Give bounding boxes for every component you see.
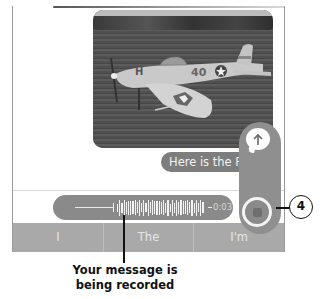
waveform-bar <box>185 201 186 214</box>
phone-screen: 40 H Here is the P D 0:03 I The I'm <box>12 6 285 252</box>
svg-text:H: H <box>135 66 143 77</box>
callout-number-badge: 4 <box>289 195 313 219</box>
waveform-bar <box>165 203 166 213</box>
suggestion-2[interactable]: The <box>104 223 195 252</box>
callout-pointer-line <box>276 207 290 209</box>
waveform-bar <box>137 202 138 213</box>
waveform-bar <box>200 200 201 216</box>
waveform-bar <box>145 203 146 212</box>
waveform-bar <box>117 204 118 212</box>
waveform-bar <box>176 200 177 216</box>
arrow-up-icon <box>252 133 264 146</box>
waveform-bar <box>183 201 184 214</box>
waveform-bar <box>141 203 142 212</box>
waveform-bar <box>189 202 190 213</box>
waveform-bar <box>156 201 157 215</box>
waveform-bar <box>172 200 173 216</box>
waveform-bar <box>174 203 175 213</box>
quicktype-suggestion-bar: I The I'm <box>13 223 284 252</box>
waveform-bar <box>139 200 140 216</box>
waveform-bar <box>130 201 131 215</box>
waveform-marker <box>113 203 114 212</box>
waveform-bar <box>191 200 192 216</box>
waveform-bar <box>143 200 144 216</box>
waveform-tail <box>208 207 212 208</box>
waveform-bar <box>126 202 127 214</box>
waveform-bar <box>170 204 171 212</box>
audio-waveform-pill: 0:03 <box>53 195 233 220</box>
waveform-bar <box>202 202 203 213</box>
waveform-bars <box>117 199 207 216</box>
waveform-bar <box>198 203 199 212</box>
previous-message-edge <box>53 6 285 8</box>
caption-pointer-line <box>123 215 125 263</box>
waveform-bar <box>132 201 133 214</box>
waveform-bar <box>163 200 164 215</box>
caption-text: Your message is being recorded <box>62 263 188 293</box>
waveform-bar <box>161 202 162 214</box>
waveform-bar <box>194 203 195 213</box>
waveform-bar <box>196 200 197 216</box>
waveform-bar <box>159 201 160 215</box>
waveform-bar <box>135 200 136 215</box>
waveform-bar <box>152 200 153 215</box>
waveform-baseline <box>75 207 113 208</box>
waveform-bar <box>167 200 168 216</box>
waveform-bar <box>180 200 181 215</box>
recording-timer: 0:03 <box>213 195 232 220</box>
waveform-bar <box>121 203 122 213</box>
waveform-bar <box>150 202 151 213</box>
waveform-bar <box>187 200 188 215</box>
audio-record-panel <box>239 122 281 234</box>
suggestion-1[interactable]: I <box>13 223 104 252</box>
stop-recording-button[interactable] <box>242 197 272 227</box>
waveform-bar <box>124 200 125 215</box>
message-text: Here is the P <box>169 155 242 169</box>
waveform-bar <box>154 201 155 214</box>
send-audio-button[interactable] <box>246 128 270 150</box>
waveform-bar <box>128 201 129 215</box>
waveform-bar <box>178 202 179 214</box>
stop-square-icon <box>253 208 262 217</box>
svg-text:40: 40 <box>191 66 207 79</box>
waveform-bar <box>119 200 120 216</box>
waveform-bar <box>148 200 149 216</box>
